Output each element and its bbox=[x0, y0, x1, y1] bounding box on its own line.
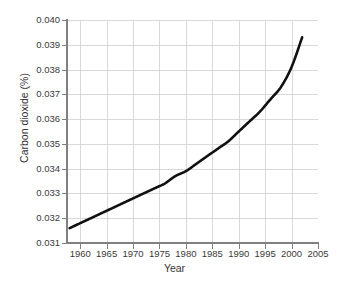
x-tick-label: 1965 bbox=[96, 248, 117, 259]
y-tick-label: 0.031 bbox=[0, 237, 60, 248]
x-tick-mark bbox=[212, 244, 213, 249]
y-tick-label: 0.034 bbox=[0, 163, 60, 174]
y-tick-label: 0.038 bbox=[0, 64, 60, 75]
y-tick-mark bbox=[62, 169, 66, 170]
y-tick-mark bbox=[62, 45, 66, 46]
x-tick-mark bbox=[186, 244, 187, 249]
x-tick-mark bbox=[133, 244, 134, 249]
y-tick-mark bbox=[62, 70, 66, 71]
x-tick-label: 2000 bbox=[281, 248, 302, 259]
x-tick-label: 1960 bbox=[70, 248, 91, 259]
y-tick-label: 0.039 bbox=[0, 39, 60, 50]
x-tick-label: 1985 bbox=[202, 248, 223, 259]
x-tick-mark bbox=[292, 244, 293, 249]
x-tick-mark bbox=[80, 244, 81, 249]
x-tick-label: 1980 bbox=[175, 248, 196, 259]
y-tick-mark bbox=[62, 20, 66, 21]
y-axis-title: Carbon dioxide (%) bbox=[18, 48, 30, 188]
y-tick-label: 0.040 bbox=[0, 14, 60, 25]
x-tick-mark bbox=[107, 244, 108, 249]
x-tick-mark bbox=[239, 244, 240, 249]
y-tick-label: 0.036 bbox=[0, 113, 60, 124]
x-tick-label: 1975 bbox=[149, 248, 170, 259]
x-tick-label: 2005 bbox=[307, 248, 328, 259]
y-tick-mark bbox=[62, 193, 66, 194]
x-tick-label: 1990 bbox=[228, 248, 249, 259]
y-tick-label: 0.033 bbox=[0, 187, 60, 198]
y-tick-mark bbox=[62, 119, 66, 120]
y-tick-mark bbox=[62, 243, 66, 244]
y-tick-label: 0.037 bbox=[0, 88, 60, 99]
y-tick-mark bbox=[62, 144, 66, 145]
y-tick-label: 0.032 bbox=[0, 212, 60, 223]
y-tick-mark bbox=[62, 218, 66, 219]
x-tick-mark bbox=[318, 244, 319, 249]
x-tick-label: 1995 bbox=[255, 248, 276, 259]
co2-line-chart: 0.0310.0320.0330.0340.0350.0360.0370.038… bbox=[0, 0, 349, 287]
y-tick-mark bbox=[62, 94, 66, 95]
x-tick-label: 1970 bbox=[122, 248, 143, 259]
x-tick-mark bbox=[265, 244, 266, 249]
y-tick-label: 0.035 bbox=[0, 138, 60, 149]
x-axis-title: Year bbox=[0, 262, 349, 274]
x-tick-mark bbox=[159, 244, 160, 249]
